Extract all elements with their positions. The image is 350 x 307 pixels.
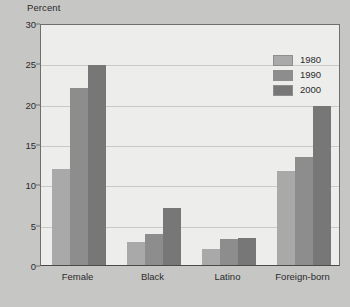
bar-group (127, 25, 181, 265)
bar (220, 239, 238, 265)
legend-label: 2000 (300, 84, 321, 95)
x-axis-category-label: Foreign-born (275, 271, 329, 282)
bar (277, 171, 295, 265)
y-axis-tick-label: 5 (10, 220, 36, 231)
figure-caption (6, 299, 350, 307)
bar-chart-figure: Percent 051015202530 198019902000 Female… (0, 0, 350, 307)
y-axis-tick-label: 30 (10, 19, 36, 30)
bar (88, 65, 106, 265)
legend-item: 1980 (273, 54, 350, 68)
bar (127, 242, 145, 265)
chart-legend: 198019902000 (273, 54, 350, 99)
y-axis-title: Percent (27, 2, 60, 13)
bar (163, 208, 181, 265)
y-axis-tick-label: 0 (10, 261, 36, 272)
x-axis-category-label: Black (141, 271, 164, 282)
bar (70, 88, 88, 265)
legend-label: 1980 (300, 54, 321, 65)
legend-item: 2000 (273, 84, 350, 98)
bar (202, 249, 220, 265)
bar (295, 157, 313, 265)
plot-area: 198019902000 (40, 24, 340, 266)
y-axis-tick-label: 15 (10, 140, 36, 151)
legend-swatch (273, 70, 293, 81)
bar (313, 106, 331, 265)
legend-swatch (273, 55, 293, 66)
legend-label: 1990 (300, 69, 321, 80)
bar-group (52, 25, 106, 265)
bar (145, 234, 163, 265)
y-axis-tick-label: 25 (10, 59, 36, 70)
legend-swatch (273, 85, 293, 96)
x-axis-category-label: Female (62, 271, 94, 282)
bar-group (202, 25, 256, 265)
legend-item: 1990 (273, 69, 350, 83)
y-axis-tick-label: 20 (10, 99, 36, 110)
bar (52, 169, 70, 265)
x-axis-category-label: Latino (215, 271, 241, 282)
y-axis-tick-label: 10 (10, 180, 36, 191)
bar (238, 238, 256, 265)
